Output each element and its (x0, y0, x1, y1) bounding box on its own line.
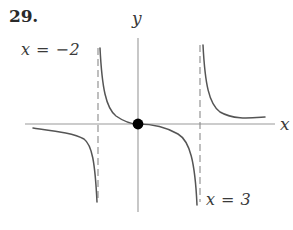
asymptote-label-left: x = −2 (21, 40, 80, 59)
curve-branch-left (33, 128, 97, 202)
y-axis-label: y (132, 8, 142, 28)
curve-branch-right (203, 45, 265, 118)
origin-point-marker (133, 119, 144, 130)
x-axis-label: x (280, 114, 290, 134)
curve-branch-middle (100, 48, 197, 205)
figure-container: 29. x = −2 x = 3 y x (0, 0, 293, 230)
asymptote-label-right: x = 3 (206, 190, 251, 209)
